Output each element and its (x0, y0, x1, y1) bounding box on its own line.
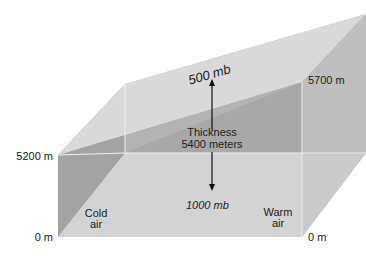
height-0-right: 0 m (308, 231, 326, 243)
label-1000mb: 1000 mb (186, 199, 229, 211)
thickness-value: 5400 meters (181, 138, 243, 150)
cold-air-label-2: air (90, 218, 103, 230)
warm-air-label-2: air (272, 217, 285, 229)
height-5200: 5200 m (16, 150, 53, 162)
right-floor-overlay (302, 153, 366, 237)
height-5700: 5700 m (308, 74, 345, 86)
thickness-label: Thickness (187, 126, 237, 138)
height-0-left: 0 m (35, 231, 53, 243)
thickness-diagram: 500 mb 1000 mb Thickness 5400 meters 520… (0, 0, 366, 263)
